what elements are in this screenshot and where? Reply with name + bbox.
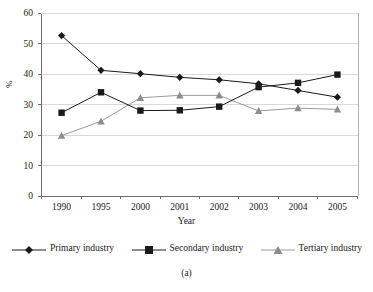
legend-label-primary-industry: Primary industry — [50, 243, 114, 254]
figure-caption: (a) — [0, 268, 373, 278]
x-axis-tick-label: 1995 — [81, 202, 121, 212]
y-axis-tick-label: 30 — [7, 100, 33, 110]
legend-key-triangle-icon — [261, 242, 295, 254]
legend-key-square-icon — [132, 242, 166, 254]
legend-item-tertiary-industry: Tertiary industry — [261, 242, 362, 254]
x-axis-tick-label: 2003 — [239, 202, 279, 212]
x-axis-tick-label: 2004 — [278, 202, 318, 212]
gridlines — [41, 13, 358, 196]
y-axis-tick-label: 0 — [7, 191, 33, 201]
y-axis-tick-label: 60 — [7, 8, 33, 18]
chart-legend: Primary industry Secondary industry Tert… — [12, 238, 362, 258]
x-axis-tick-label: 2002 — [199, 202, 239, 212]
legend-item-secondary-industry: Secondary industry — [132, 242, 244, 254]
x-axis-tick-label: 2005 — [317, 202, 357, 212]
x-axis-tick-label: 2001 — [160, 202, 200, 212]
y-axis-tick-label: 20 — [7, 130, 33, 140]
x-axis-label: Year — [0, 216, 373, 226]
x-axis-tick-label: 2000 — [120, 202, 160, 212]
legend-label-secondary-industry: Secondary industry — [170, 243, 244, 254]
y-axis-tick-label: 50 — [7, 39, 33, 49]
legend-label-tertiary-industry: Tertiary industry — [299, 243, 362, 254]
x-axis-tick-label: 1990 — [42, 202, 82, 212]
series-tertiary-industry — [58, 91, 341, 138]
legend-key-diamond-icon — [12, 242, 46, 254]
y-axis-tick-label: 10 — [7, 161, 33, 171]
data-series-group — [58, 32, 341, 139]
y-axis-tick-label: 40 — [7, 69, 33, 79]
figure-panel: % 0102030405060 199019952000200120022003… — [0, 0, 373, 292]
legend-item-primary-industry: Primary industry — [12, 242, 114, 254]
